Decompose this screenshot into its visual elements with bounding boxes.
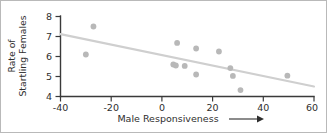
data-point: [193, 46, 199, 52]
trend-line: [61, 34, 315, 86]
y-tick-label: 5: [46, 71, 52, 82]
x-tick-label: 60: [306, 102, 318, 113]
data-points-group: [83, 24, 290, 93]
x-tick-label: -20: [103, 102, 119, 113]
y-axis-label-line1: Rate of: [6, 39, 17, 73]
y-axis-label: Rate of Startling Females: [6, 15, 28, 96]
data-point: [227, 65, 233, 71]
x-axis-label: Male Responsiveness: [117, 113, 218, 124]
data-point: [173, 63, 179, 69]
data-point: [182, 63, 188, 69]
data-point: [230, 73, 236, 79]
y-tick-label: 6: [46, 51, 52, 62]
data-point: [91, 24, 97, 30]
data-point: [174, 40, 180, 46]
data-point: [83, 52, 89, 58]
x-axis-label-group: Male Responsiveness: [117, 113, 264, 124]
data-point: [284, 73, 290, 79]
x-tick-label: 40: [257, 102, 269, 113]
data-point: [193, 72, 199, 78]
y-axis-label-line2: Startling Females: [17, 15, 28, 96]
y-tick-label: 7: [46, 31, 52, 42]
y-tick-label: 4: [46, 91, 52, 102]
y-axis-ticks: 8 7 6 5 4: [46, 11, 61, 102]
x-tick-label: -40: [53, 102, 69, 113]
x-axis-ticks: -40 -20 0 20 40 60: [53, 97, 318, 114]
x-tick-label: 20: [207, 102, 219, 113]
data-point: [238, 87, 244, 93]
x-tick-label: 0: [159, 102, 165, 113]
plot-canvas: Rate of Startling Females 8 7 6 5 4 -40 …: [1, 1, 327, 133]
arrow-right-icon-head: [257, 115, 264, 122]
data-point: [216, 49, 222, 55]
y-tick-label: 8: [46, 11, 52, 22]
scatter-plot-figure: Rate of Startling Females 8 7 6 5 4 -40 …: [0, 0, 327, 133]
